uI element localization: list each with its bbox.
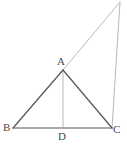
vertex-label-a: A — [57, 56, 65, 67]
segment-EC — [112, 2, 120, 128]
segment-extension-AE — [63, 2, 120, 70]
vertex-label-b: B — [3, 122, 10, 133]
geometry-canvas — [0, 0, 127, 147]
segment-side-AC — [63, 70, 112, 128]
geometry-figure: A B C D — [0, 0, 127, 147]
segment-side-AB — [13, 70, 63, 128]
vertex-label-c: C — [113, 124, 120, 135]
vertex-label-d: D — [58, 131, 66, 142]
